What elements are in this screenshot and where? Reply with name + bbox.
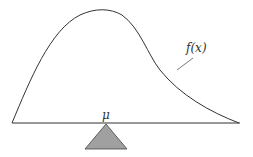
curve-label: f(x): [185, 41, 207, 55]
density-balance-diagram: f(x) μ: [0, 0, 253, 157]
mean-label: μ: [102, 108, 110, 122]
density-curve: [12, 10, 239, 123]
label-leader-line: [177, 58, 193, 70]
fulcrum-triangle-icon: [85, 124, 127, 149]
diagram-canvas: f(x) μ: [0, 0, 253, 157]
